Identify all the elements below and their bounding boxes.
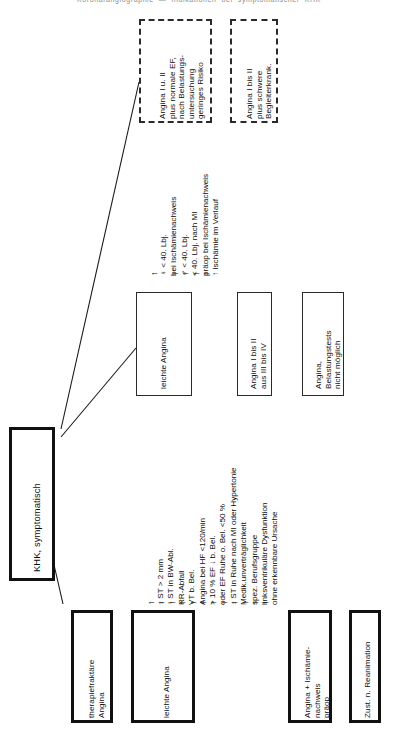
box-therapiefraktaere-angina: therapiefraktäre Angina [71, 610, 113, 723]
box-leichte-angina-lower-label: leichte Angina [162, 666, 172, 718]
dashed-box-angina-i-ii-normal-ef-label: Angina I u. II plus normale EF, nach Bel… [158, 55, 206, 119]
criteria-list-lower-arrows: ↑↑↑↑↑↑↑↑↑↑↑↑ [146, 601, 271, 606]
criteria-item-arrow-icon: ↑ [229, 601, 239, 606]
criteria-item-arrow-icon: ↑ [146, 601, 156, 606]
dashed-box-angina-i-ii-normal-ef: Angina I u. II plus normale EF, nach Bel… [139, 19, 212, 123]
criteria-item-arrow-icon: ↑ [260, 601, 270, 606]
box-angina-i-bis-ii-aus-iii-bis-iv-label: Angina I bis II aus III bis IV [249, 338, 268, 389]
box-khk-symptomatisch: KHK, symptomatisch [9, 427, 55, 581]
criteria-item-arrow-icon: ↑ [149, 272, 159, 277]
criteria-item-arrow-icon: ↑ [177, 601, 187, 606]
criteria-item-arrow-icon: ↑ [180, 272, 190, 277]
criteria-item-arrow-icon: ↑ [170, 272, 180, 277]
criteria-item: VT b. Bel. [188, 467, 198, 605]
criteria-list-upper-arrows: ↑ ↑↑↑↑ [149, 272, 211, 277]
criteria-list-lower: ↓ ST > 2 mm↑ ST in BW-Abl.RR-AbfallVT b.… [157, 467, 282, 605]
criteria-item-arrow-icon: ↑ [188, 601, 198, 606]
box-zustand-nach-reanimation: Zust. n. Reanimation [349, 610, 381, 723]
criteria-item-arrow-icon: ↑ [198, 601, 208, 606]
dashed-box-angina-i-ii-schwere-begleiterkrank-label: Angina I bis II plus schwere Begleiterkr… [245, 64, 274, 120]
criteria-item-arrow-icon: ↑ [219, 601, 229, 606]
criteria-item: ohne erkennbare Ursache [271, 467, 281, 605]
box-leichte-angina-upper: leichte Angina [136, 292, 192, 396]
criteria-item-arrow-icon: ↑ [250, 601, 260, 606]
criteria-item-arrow-icon: ↑ [167, 601, 177, 606]
diagram-canvas: Koronarangiographie — Indikationen bei s… [0, 0, 398, 729]
box-leichte-angina-upper-label: leichte Angina [159, 337, 169, 389]
criteria-item-arrow-icon: ↑ [208, 601, 218, 606]
criteria-item-arrow-icon: ↑ [156, 601, 166, 606]
criteria-item-arrow-icon [159, 272, 169, 277]
criteria-item: ↑ Ischämie im Verlauf [212, 174, 222, 276]
box-khk-symptomatisch-label: KHK, symptomatisch [31, 483, 42, 572]
box-angina-ischaemienachweis-praeop-label: Angina + Ischämie- nachweis präop [303, 647, 332, 718]
criteria-item-arrow-icon: ↑ [191, 272, 201, 277]
criteria-item: Medik.unverträglichkeit [240, 467, 250, 605]
box-angina-belastungstests-nicht-moeglich: Angina, Belastungstests nicht möglich [302, 292, 344, 396]
page-top-cut-text: Koronarangiographie — Indikationen bei s… [0, 0, 398, 7]
criteria-item: < 40. Lbj. nach MI [191, 174, 201, 276]
box-leichte-angina-lower: leichte Angina [131, 610, 195, 723]
dashed-box-angina-i-ii-schwere-begleiterkrank: Angina I bis II plus schwere Begleiterkr… [230, 19, 278, 123]
box-zustand-nach-reanimation-label: Zust. n. Reanimation [363, 641, 373, 718]
box-angina-ischaemienachweis-praeop: Angina + Ischämie- nachweis präop [288, 610, 332, 723]
box-therapiefraktaere-angina-label: therapiefraktäre Angina [87, 660, 106, 718]
box-angina-i-bis-ii-aus-iii-bis-iv: Angina I bis II aus III bis IV [237, 292, 272, 396]
criteria-item-arrow-icon: ↑ [201, 272, 211, 277]
box-angina-belastungstests-nicht-moeglich-label: Angina, Belastungstests nicht möglich [314, 330, 343, 389]
criteria-item-arrow-icon: ↑ [240, 601, 250, 606]
criteria-list-upper: ♀ < 40. Lbj.bei Ischämienachweis♂ < 40. … [160, 174, 222, 276]
